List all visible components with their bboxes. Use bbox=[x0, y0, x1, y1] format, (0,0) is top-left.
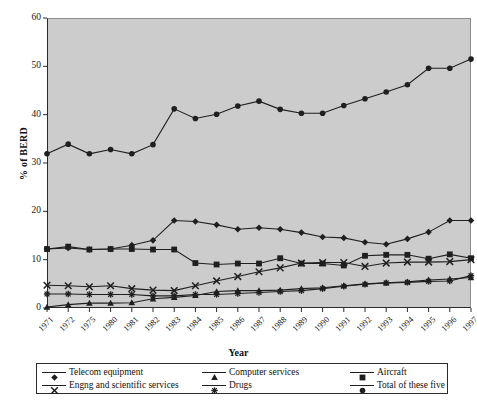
legend-item-drugs: Drugs bbox=[201, 379, 349, 392]
chart-legend: Telecom equipment Computer services Airc… bbox=[36, 363, 448, 394]
legend-item-telecom-equipment: Telecom equipment bbox=[41, 366, 201, 379]
y-tick-label: 20 bbox=[11, 206, 41, 216]
legend-row: Engng and scientific services Drugs Tota… bbox=[41, 379, 443, 392]
y-axis-group: % of BERD bbox=[0, 0, 477, 406]
y-tick-label: 60 bbox=[11, 13, 41, 23]
square-icon bbox=[349, 367, 375, 378]
y-tick-label: 0 bbox=[11, 303, 41, 313]
legend-label: Telecom equipment bbox=[69, 367, 143, 378]
y-axis-title: % of BERD bbox=[18, 109, 29, 199]
legend-item-computer-services: Computer services bbox=[201, 366, 349, 379]
legend-item-aircraft: Aircraft bbox=[349, 366, 443, 379]
diamond-icon bbox=[41, 367, 67, 378]
legend-label: Total of these five bbox=[377, 380, 445, 391]
y-tick-label: 50 bbox=[11, 61, 41, 71]
legend-label: Aircraft bbox=[377, 367, 407, 378]
legend-item-total-of-these-five: Total of these five bbox=[349, 379, 445, 392]
legend-label: Drugs bbox=[229, 380, 252, 391]
y-tick-label: 10 bbox=[11, 255, 41, 265]
triangle-icon bbox=[201, 367, 227, 378]
legend-label: Computer services bbox=[229, 367, 299, 378]
circle-icon bbox=[349, 380, 375, 391]
x-axis-title: Year bbox=[0, 347, 477, 358]
y-tick-label: 30 bbox=[11, 158, 41, 168]
star-icon bbox=[201, 380, 227, 391]
chart-figure: % of BERD 0102030405060 1971197219751980… bbox=[0, 0, 477, 406]
legend-item-engng-and-scientific-services: Engng and scientific services bbox=[41, 379, 201, 392]
legend-row: Telecom equipment Computer services Airc… bbox=[41, 366, 443, 379]
y-tick-label: 40 bbox=[11, 110, 41, 120]
x-marker-icon bbox=[41, 380, 67, 391]
legend-label: Engng and scientific services bbox=[69, 380, 179, 391]
